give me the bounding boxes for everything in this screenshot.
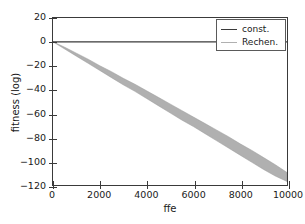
x-tick-label: 6000 (169, 190, 219, 200)
figure: fitness (log) ffe const. Rechen. 200−20−… (0, 0, 305, 224)
x-tick-mark (100, 181, 101, 185)
y-tick-mark (53, 139, 57, 140)
y-tick-mark (53, 163, 57, 164)
legend-swatch-const (221, 29, 237, 30)
x-axis-title: ffe (52, 203, 288, 214)
x-tick-label: 2000 (74, 190, 124, 200)
legend-label-const: const. (242, 25, 269, 34)
y-tick-mark (53, 66, 57, 67)
legend-label-rechen: Rechen. (242, 38, 278, 47)
series-band-rechen (53, 42, 287, 182)
x-tick-mark (242, 181, 243, 185)
legend-item-const[interactable]: const. (217, 23, 285, 36)
y-tick-mark (53, 18, 57, 19)
y-axis-title-text: fitness (log) (11, 73, 22, 132)
x-tick-mark (53, 181, 54, 185)
x-tick-label: 8000 (216, 190, 266, 200)
x-tick-label: 4000 (121, 190, 171, 200)
y-tick-mark (53, 42, 57, 43)
y-tick-mark (53, 90, 57, 91)
y-tick-mark (53, 115, 57, 116)
x-tick-mark (195, 181, 196, 185)
x-tick-label: 0 (27, 190, 77, 200)
y-tick-label: −40 (4, 84, 46, 94)
x-tick-label: 10000 (263, 190, 305, 200)
x-tick-mark (147, 181, 148, 185)
y-tick-label: −20 (4, 60, 46, 70)
legend-item-rechen[interactable]: Rechen. (217, 36, 285, 49)
y-tick-label: −80 (4, 133, 46, 143)
legend[interactable]: const. Rechen. (216, 19, 286, 51)
y-tick-label: 20 (4, 12, 46, 22)
y-tick-label: 0 (4, 36, 46, 46)
y-tick-label: −100 (4, 157, 46, 167)
x-tick-mark (289, 181, 290, 185)
y-tick-label: −60 (4, 109, 46, 119)
legend-swatch-rechen (221, 42, 237, 43)
